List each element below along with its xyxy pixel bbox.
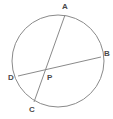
point-label-p: P — [47, 74, 52, 82]
geometry-canvas — [0, 0, 113, 119]
point-label-c: C — [29, 106, 35, 114]
circle-shape — [12, 15, 104, 107]
point-label-b: B — [104, 50, 110, 58]
point-label-d: D — [8, 74, 14, 82]
geometry-figure: A B C D P — [0, 0, 113, 119]
chord-db-line — [18, 57, 101, 76]
point-label-a: A — [62, 3, 68, 11]
chord-ac-line — [34, 15, 65, 102]
